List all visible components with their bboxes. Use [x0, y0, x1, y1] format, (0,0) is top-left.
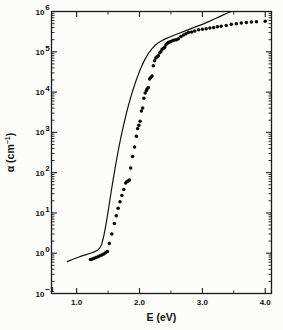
data-point [110, 232, 114, 236]
data-point [150, 74, 154, 78]
data-point [106, 250, 110, 254]
data-point [201, 28, 205, 32]
data-point [230, 23, 234, 27]
x-tick-label: 3.0 [197, 298, 209, 307]
svg-text:1: 1 [45, 205, 50, 214]
svg-text:5: 5 [45, 44, 50, 53]
data-point [135, 135, 139, 139]
data-point [250, 20, 254, 24]
data-point [216, 25, 220, 29]
data-point [240, 21, 244, 25]
svg-text:10: 10 [36, 8, 45, 17]
svg-text:4: 4 [45, 84, 50, 93]
data-point [138, 119, 142, 123]
data-point [255, 20, 259, 24]
data-point [263, 20, 267, 24]
svg-text:−1: −1 [45, 285, 55, 294]
data-point [116, 207, 120, 211]
data-point [118, 200, 122, 204]
x-tick-label: 2.0 [134, 298, 146, 307]
data-point [114, 214, 118, 218]
x-axis-title-text: E (eV) [147, 311, 177, 323]
data-point [197, 28, 201, 32]
x-tick-label: 4.0 [260, 298, 272, 307]
data-point [157, 54, 161, 58]
svg-text:10: 10 [36, 290, 45, 299]
data-point [224, 24, 228, 28]
svg-text:10: 10 [36, 88, 45, 97]
data-point [245, 21, 249, 25]
absorption-spectrum-figure: 1.02.03.04.0 10−1100101102103104105106 E… [0, 0, 283, 330]
data-point [152, 64, 156, 68]
data-point [129, 166, 133, 170]
svg-text:10: 10 [36, 209, 45, 218]
svg-text:10: 10 [36, 128, 45, 137]
data-point [187, 31, 191, 35]
data-point [193, 29, 197, 33]
data-point [122, 188, 126, 192]
svg-text:3: 3 [45, 124, 50, 133]
data-point [133, 145, 137, 149]
data-point [147, 86, 151, 90]
data-point [113, 222, 117, 226]
svg-text:2: 2 [45, 164, 50, 173]
data-point [142, 97, 146, 101]
data-point [108, 242, 112, 246]
svg-text:0: 0 [45, 245, 50, 254]
data-point [212, 26, 216, 30]
x-tick-label: 1.0 [71, 298, 83, 307]
svg-text:10: 10 [36, 249, 45, 258]
x-axis-title: E (eV) [147, 311, 177, 323]
data-point [190, 30, 194, 33]
svg-text:6: 6 [45, 3, 50, 12]
svg-text:10: 10 [36, 169, 45, 178]
data-point [219, 25, 223, 29]
data-point [137, 124, 141, 128]
chart-canvas: 1.02.03.04.0 10−1100101102103104105106 E… [0, 0, 283, 330]
data-point [208, 26, 212, 30]
data-point [204, 27, 208, 31]
data-point [136, 127, 140, 131]
data-point [128, 178, 132, 182]
data-point [141, 106, 145, 110]
data-point [120, 194, 124, 198]
data-point [131, 155, 135, 159]
svg-text:10: 10 [36, 48, 45, 57]
data-point [235, 22, 239, 26]
